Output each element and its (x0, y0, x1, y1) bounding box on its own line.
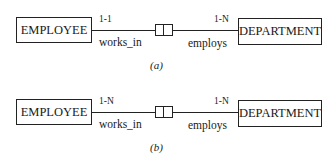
split-box-relationship-icon (155, 24, 173, 36)
department-entity: DEPARTMENT (238, 100, 322, 127)
right-cardinality: 1-N (214, 96, 229, 106)
employee-label: EMPLOYEE (21, 23, 88, 38)
relationship-divider (163, 24, 164, 36)
right-role: employs (188, 119, 227, 131)
right-role: employs (188, 37, 227, 49)
employee-entity: EMPLOYEE (16, 17, 92, 43)
split-box-relationship-icon (155, 106, 173, 118)
connector-left (92, 112, 156, 113)
left-role: works_in (99, 36, 142, 48)
left-cardinality: 1-1 (99, 14, 112, 24)
er-diagram-b: EMPLOYEE DEPARTMENT 1-N 1-N works_in emp… (0, 82, 333, 164)
caption: (a) (150, 59, 163, 71)
connector-left (92, 30, 156, 31)
employee-entity: EMPLOYEE (16, 99, 92, 125)
left-cardinality: 1-N (99, 96, 114, 106)
er-diagram-a: EMPLOYEE DEPARTMENT 1-1 1-N works_in emp… (0, 0, 333, 82)
caption: (b) (150, 141, 163, 153)
department-entity: DEPARTMENT (238, 18, 322, 45)
department-label: DEPARTMENT (239, 24, 321, 39)
connector-right (173, 30, 239, 31)
department-label: DEPARTMENT (239, 106, 321, 121)
left-role: works_in (99, 118, 142, 130)
right-cardinality: 1-N (214, 14, 229, 24)
employee-label: EMPLOYEE (21, 105, 88, 120)
connector-right (173, 112, 239, 113)
relationship-divider (163, 106, 164, 118)
